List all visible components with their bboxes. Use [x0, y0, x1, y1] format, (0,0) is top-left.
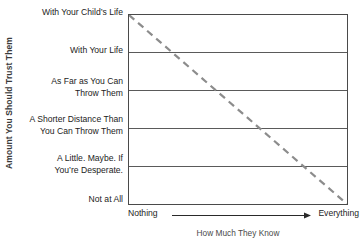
y-tick-label-5: With Your Child’s Life — [18, 7, 123, 19]
x-axis-label-right: Everything — [318, 208, 359, 218]
plot-area — [128, 14, 348, 205]
x-axis-arrow-icon — [172, 211, 312, 220]
y-tick-label-2: A Shorter Distance Than You Can Throw Th… — [18, 114, 123, 137]
trust-vs-knowledge-chart: Amount You Should Trust Them With Your C… — [0, 0, 361, 247]
y-axis-title-text: Amount You Should Trust Them — [4, 37, 14, 169]
x-axis-label-left: Nothing — [128, 208, 158, 218]
y-tick-label-0: Not at All — [18, 194, 123, 206]
y-axis-tick-labels: With Your Child’s Life With Your Life As… — [18, 0, 126, 212]
x-axis: Nothing Everything — [128, 206, 360, 222]
y-tick-label-3: As Far as You Can Throw Them — [18, 76, 123, 99]
y-tick-label-1: A Little. Maybe. If You’re Desperate. — [18, 153, 123, 176]
x-axis-title: How Much They Know — [128, 228, 348, 238]
trend-line-dashed — [129, 15, 347, 204]
y-axis-title: Amount You Should Trust Them — [0, 0, 18, 205]
y-tick-label-4: With Your Life — [18, 45, 123, 57]
